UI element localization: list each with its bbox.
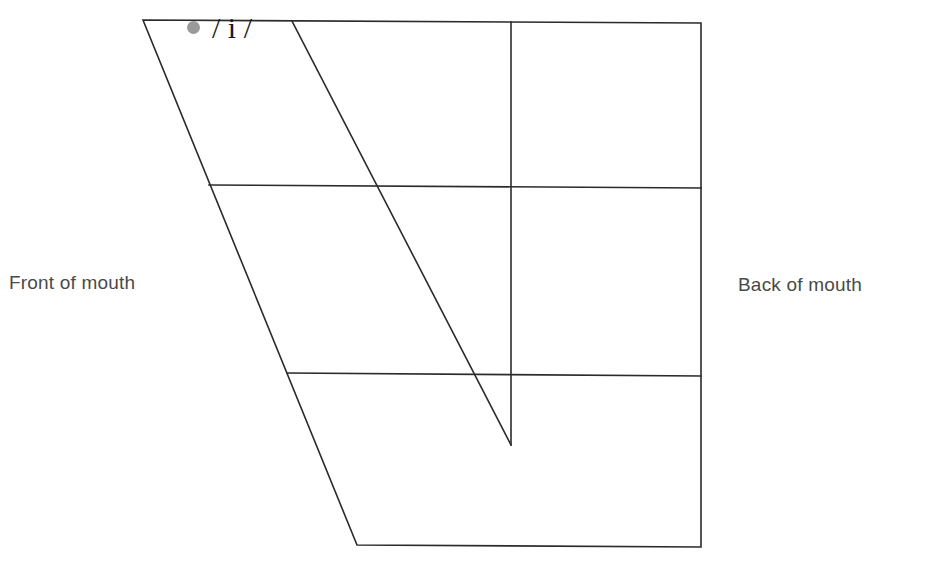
diagonal-divider — [292, 21, 511, 445]
quadrilateral-outline — [143, 20, 701, 547]
front-of-mouth-label: Front of mouth — [9, 272, 135, 294]
vowel-symbol-i: / i / — [212, 12, 252, 44]
lower-horizontal-divider — [287, 373, 701, 376]
vowel-marker-dot — [187, 21, 200, 34]
back-of-mouth-label: Back of mouth — [738, 274, 862, 296]
upper-horizontal-divider — [209, 185, 701, 188]
